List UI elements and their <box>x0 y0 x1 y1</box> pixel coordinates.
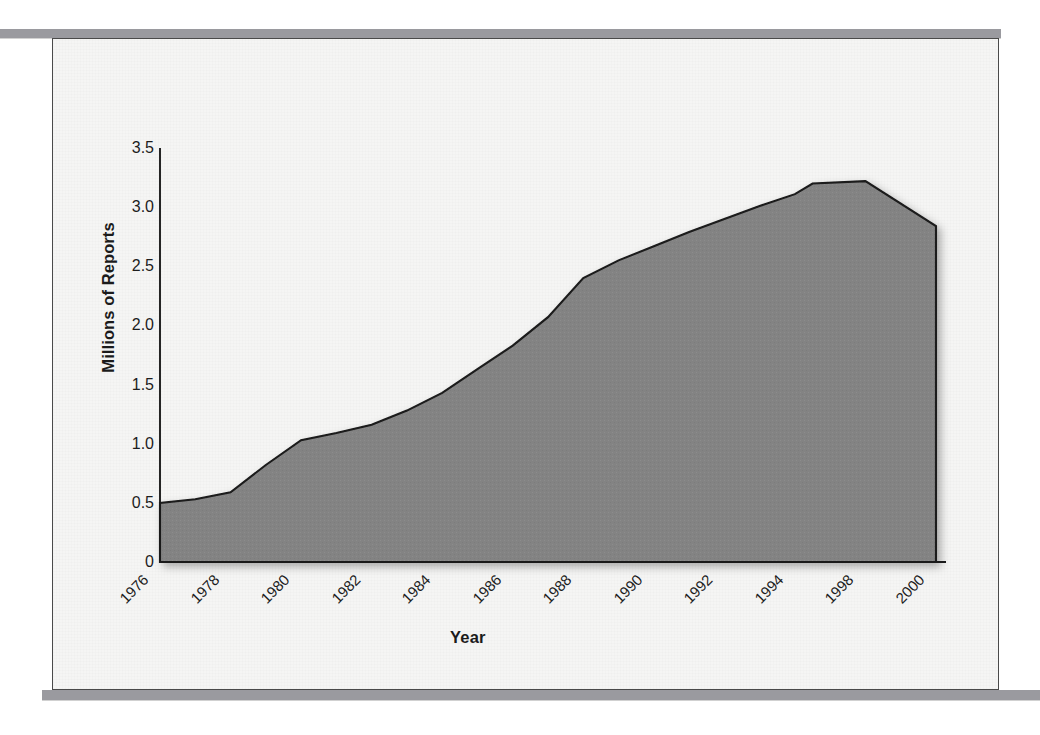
y-axis-title: Millions of Reports <box>99 188 118 408</box>
x-tick-label: 1976 <box>116 571 152 607</box>
x-tick-label: 1998 <box>821 571 857 607</box>
scanned-page: the lorem ipsum dolor sit amet consectet… <box>0 0 1040 735</box>
x-tick-label: 1994 <box>751 571 787 607</box>
x-axis-title: Year <box>450 628 486 647</box>
x-tick-label: 1986 <box>469 571 505 607</box>
x-tick-label: 1982 <box>328 571 364 607</box>
x-tick-label: 1984 <box>398 571 434 607</box>
x-tick-label: 1988 <box>539 571 575 607</box>
x-tick-label: 1978 <box>187 571 223 607</box>
x-tick-label: 1980 <box>257 571 293 607</box>
x-tick-label: 1990 <box>610 571 646 607</box>
x-axis-ticks: 1976197819801982198419861988199019921994… <box>0 0 1040 735</box>
x-tick-label: 1992 <box>680 571 716 607</box>
x-tick-label: 2000 <box>892 571 928 607</box>
